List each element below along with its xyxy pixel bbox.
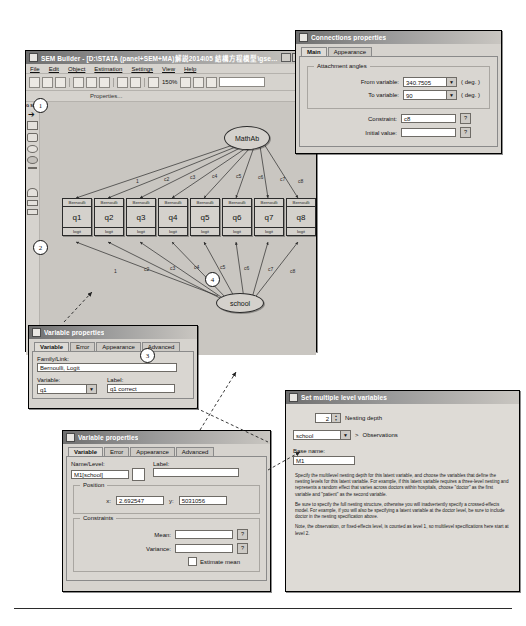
minimize-button[interactable] [281,53,291,62]
menu-help[interactable]: Help [184,66,196,72]
zoom-level[interactable]: 150% [161,79,178,85]
variable-icon-2 [66,433,75,442]
chevron-down-icon-2[interactable]: ▼ [446,91,456,99]
line-tool[interactable] [28,167,37,169]
save-icon[interactable] [55,77,66,88]
name-label-wrap: Label: [153,461,239,481]
multilevel-button[interactable] [132,468,145,481]
filled-ellipse-tool[interactable] [27,156,38,164]
redo-icon[interactable] [130,77,141,88]
name-level-row: Name/Level: M1[school] Label: [71,461,262,481]
observed-node-q1[interactable]: Bernoulliq1logit [62,198,92,236]
observed-node-q7[interactable]: Bernoulliq7logit [254,198,284,236]
label-field-input[interactable]: q1 correct [107,384,175,393]
estimate-mean-checkbox[interactable] [188,557,197,566]
spinner-arrows-icon[interactable]: ▲▼ [331,414,340,422]
diagram-canvas[interactable]: MathAb school Bernoulliq1logitBernoulliq… [40,102,316,355]
chevron-down-icon[interactable]: ▼ [446,78,456,86]
pointer-icon[interactable] [148,77,159,88]
open-icon[interactable] [42,77,53,88]
undo-icon[interactable] [117,77,128,88]
menu-file[interactable]: File [30,66,40,72]
observed-node-q5[interactable]: Bernoulliq5logit [190,198,220,236]
copy-icon[interactable] [86,77,97,88]
level-select-combo[interactable]: school ▼ [293,430,351,440]
refresh-icon[interactable] [193,77,204,88]
tab-appearance-2[interactable]: Appearance [130,447,174,456]
menu-edit[interactable]: Edit [49,66,59,72]
to-variable-label: To variable: [313,92,399,98]
tab-main[interactable]: Main [301,47,327,56]
name-level-input[interactable]: M1[school] [71,470,129,479]
main-toolbar[interactable]: 150% [26,74,316,91]
name-label-input[interactable] [153,468,239,477]
multilevel-titlebar[interactable]: Set multiple level variables [286,391,519,404]
variance-input[interactable] [175,544,233,553]
tab-variable-2[interactable]: Variable [68,447,103,456]
observed-node-q6[interactable]: Bernoulliq6logit [222,198,252,236]
nesting-depth-spinner[interactable]: 2 ▲▼ [315,413,341,423]
latent-node-mathab[interactable]: MathAb [224,126,270,150]
area-tool[interactable] [27,209,38,215]
observed-link-q4: logit [159,227,187,235]
toolbar-combo[interactable] [219,77,265,87]
lock-icon[interactable] [206,77,217,88]
initial-value-input[interactable] [401,128,456,137]
variance-help-icon[interactable]: ? [237,543,248,554]
bottom-path-label-5: c6 [244,265,249,271]
properties-label[interactable]: Properties... [90,93,122,99]
position-y-input[interactable]: 5031056 [179,496,227,505]
menu-bar[interactable]: File Edit Object Estimation Settings Vie… [26,64,316,74]
tab-appearance[interactable]: Appearance [96,342,140,351]
fit-icon[interactable] [180,77,191,88]
menu-view[interactable]: View [162,66,175,72]
pointer-tool[interactable]: ➔ [28,111,37,118]
observed-node-q2[interactable]: Bernoulliq2logit [94,198,124,236]
constraint-input[interactable]: c8 [401,114,456,123]
path-tool[interactable] [27,188,38,197]
menu-settings[interactable]: Settings [131,66,153,72]
to-variable-combo[interactable]: 90 ▼ [403,90,457,100]
tab-variable[interactable]: Variable [34,342,69,351]
menu-object[interactable]: Object [68,66,85,72]
tab-error-2[interactable]: Error [104,447,129,456]
rectangle-tool[interactable] [27,121,38,130]
tab-error[interactable]: Error [70,342,95,351]
print-icon[interactable] [73,77,84,88]
position-x-input[interactable]: 2.692547 [116,496,164,505]
text-tool[interactable] [27,200,38,206]
callout-3: 3 [140,348,155,363]
connections-properties-titlebar[interactable]: Connections properties [296,31,501,44]
base-name-input[interactable]: M1 [293,456,355,465]
variable-properties-1-titlebar[interactable]: Variable properties [29,326,197,339]
variable-properties-2-tabs[interactable]: Variable Error Appearance Advanced [66,447,267,456]
initial-value-help-icon[interactable]: ? [460,127,471,138]
connections-tabs[interactable]: Main Appearance [299,47,498,56]
sem-builder-titlebar[interactable]: SEM Builder - [D:\STATA (panel+SEM+MA)解説… [26,51,316,64]
estimate-mean-checkbox-row[interactable]: Estimate mean [79,557,254,566]
chevron-down-icon-3[interactable]: ▼ [86,385,96,393]
tab-appearance[interactable]: Appearance [328,47,372,56]
toolbar-separator [69,78,70,87]
observed-node-q4[interactable]: Bernoulliq4logit [158,198,188,236]
tab-advanced-2[interactable]: Advanced [176,447,215,456]
family-link-input[interactable]: Bernoulli, Logit [37,363,177,372]
mean-help-icon[interactable]: ? [237,529,248,540]
observed-node-q3[interactable]: Bernoulliq3logit [126,198,156,236]
mean-input[interactable] [175,530,233,539]
observed-node-q8[interactable]: Bernoulliq8logit [286,198,316,236]
paste-icon[interactable] [99,77,110,88]
new-icon[interactable] [29,77,40,88]
constraint-help-icon[interactable]: ? [460,113,471,124]
variable-properties-1-tabs[interactable]: Variable Error Appearance Advanced [32,342,194,351]
from-variable-combo[interactable]: 340.7505 ▼ [403,77,457,87]
variable-field-combo[interactable]: q1 ▼ [37,384,97,394]
menu-estimation[interactable]: Estimation [94,66,122,72]
variable-properties-2-titlebar[interactable]: Variable properties [63,431,270,444]
rounded-rect-tool[interactable] [27,133,38,142]
latent-node-school[interactable]: school [216,293,264,313]
bottom-path-label-0: 1 [114,268,117,274]
ellipse-tool[interactable] [27,145,38,153]
chevron-down-icon-4[interactable]: ▼ [340,431,350,439]
left-toolbox[interactable]: G SEM ➔ [26,102,40,355]
